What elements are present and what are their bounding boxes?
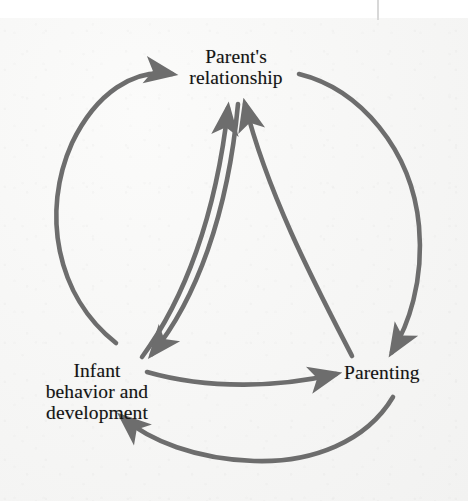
node-label-parenting-line1: Parenting [344, 362, 454, 383]
node-label-infant-line2: behavior and [17, 381, 177, 402]
node-label-parents-relationship: Parent's relationship [156, 46, 316, 88]
node-label-parents-relationship-line2: relationship [156, 67, 316, 88]
node-label-infant-behavior-and-development: Infant behavior and development [17, 360, 177, 423]
figure-container: Parent's relationship Infant behavior an… [0, 0, 468, 501]
node-label-parents-relationship-line1: Parent's [156, 46, 316, 67]
node-label-infant-line3: development [17, 402, 177, 423]
node-label-parenting: Parenting [344, 362, 454, 383]
arrow-outer-infant-to-parents-relationship [56, 73, 172, 343]
arrow-outer-parents-relationship-to-parenting [299, 74, 420, 352]
arrow-inner-parenting-to-parents-relationship [245, 104, 352, 356]
node-label-infant-line1: Infant [17, 360, 177, 381]
